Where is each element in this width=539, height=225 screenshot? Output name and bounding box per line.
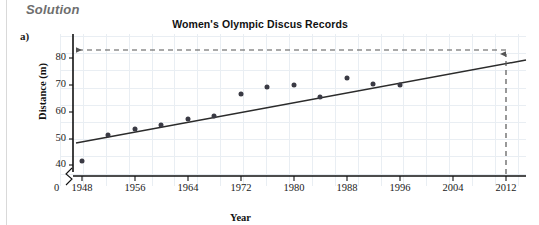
x-tick-label-1948: 1948 xyxy=(62,182,102,193)
y-tick-label-40: 40 xyxy=(44,158,66,169)
chart-container: Women's Olympic Discus Records xyxy=(60,16,532,206)
data-point xyxy=(292,83,297,88)
y-axis-title: Distance (m) xyxy=(37,63,48,120)
part-label-a: a) xyxy=(20,30,29,42)
x-axis-title: Year xyxy=(230,212,251,223)
plot-area: 80 70 60 50 40 0 1948 1956 1964 1972 198… xyxy=(60,34,526,186)
chart-title: Women's Olympic Discus Records xyxy=(60,18,460,30)
y-tick-label-50: 50 xyxy=(44,132,66,143)
data-point xyxy=(80,159,85,164)
line-of-best-fit xyxy=(76,60,526,143)
x-tick-label-1996: 1996 xyxy=(380,182,420,193)
x-tick-label-1964: 1964 xyxy=(168,182,208,193)
x-tick-marks xyxy=(82,176,506,181)
data-point xyxy=(212,114,217,119)
chart-svg xyxy=(60,34,526,186)
y-axis-zero-label: 0 xyxy=(54,182,59,193)
data-point xyxy=(106,133,111,138)
data-point xyxy=(159,123,164,128)
x-tick-label-1988: 1988 xyxy=(327,182,367,193)
data-point xyxy=(398,83,403,88)
data-point xyxy=(371,82,376,87)
data-point xyxy=(186,117,191,122)
screenshot-root: Solution a) Women's Olympic Discus Recor… xyxy=(0,0,539,225)
x-tick-label-1980: 1980 xyxy=(274,182,314,193)
x-tick-label-2004: 2004 xyxy=(433,182,473,193)
data-point xyxy=(318,95,323,100)
data-point xyxy=(345,76,350,81)
axes-group xyxy=(66,34,526,185)
y-tick-label-80: 80 xyxy=(44,51,66,62)
data-point xyxy=(133,127,138,132)
page-margin-rule xyxy=(6,0,7,225)
x-tick-label-1972: 1972 xyxy=(221,182,261,193)
scatter-points xyxy=(80,76,403,164)
x-tick-label-1956: 1956 xyxy=(115,182,155,193)
data-point xyxy=(265,85,270,90)
data-point xyxy=(239,92,244,97)
x-tick-label-2012: 2012 xyxy=(486,182,526,193)
solution-heading: Solution xyxy=(26,2,80,17)
